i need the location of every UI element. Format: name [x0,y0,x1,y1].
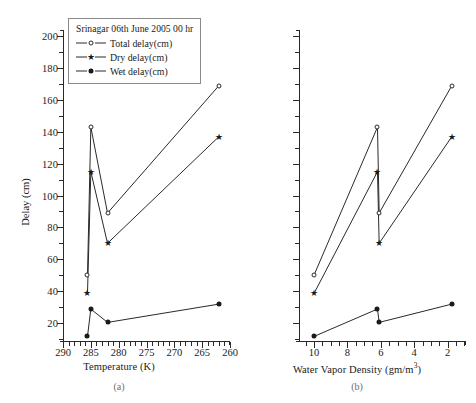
figure-delay-vs-temperature-and-wvd: Delay (cm) 20406080100120140160180200 ★★… [0,0,476,403]
data-point-filled-circle-icon [377,320,382,325]
panel-b: 20406080100120140160180200 ★★★★ Water Va… [238,0,476,403]
data-point-star-icon: ★ [103,239,112,248]
x-tick-minor [398,342,399,346]
data-point-star-icon: ★ [310,289,319,298]
y-tick-label: 140 [42,126,58,137]
x-axis-title-b-main: Water Vapor Density (gm/m [293,364,414,375]
x-tick-minor [219,342,220,346]
x-tick-label: 4 [412,347,417,358]
x-tick-label: 6 [378,347,383,358]
x-tick-minor [197,342,198,346]
legend-label-total: Total delay(cm) [106,38,172,49]
x-tick-minor [464,342,465,346]
x-tick-minor [456,342,457,346]
x-tick-minor [141,342,142,346]
x-axis-title-b-tail: ) [417,364,421,375]
x-tick-minor [439,342,440,346]
x-tick-label: 290 [55,347,71,358]
data-point-open-circle-icon [85,273,90,278]
data-point-open-circle-icon [377,211,382,216]
legend-entry-wet-a: Wet delay(cm) [76,64,193,78]
series-layer [299,30,466,342]
x-tick-minor [130,342,131,346]
x-tick-minor [406,342,407,346]
x-tick-label: 285 [83,347,99,358]
x-tick-minor [213,342,214,346]
y-tick-label: 180 [42,63,58,74]
x-tick-minor [180,342,181,346]
data-point-filled-circle-icon [88,307,93,312]
legend-title-a: Srinagar 06th June 2005 00 hr [76,23,193,34]
legend-label-wet: Wet delay(cm) [106,66,168,77]
data-point-open-circle-icon [312,273,317,278]
panel-caption-b: (b) [238,381,476,392]
x-axis-title-a: Temperature (K) [0,361,238,372]
data-point-filled-circle-icon [216,302,221,307]
data-point-filled-circle-icon [85,334,90,339]
panel-a: Delay (cm) 20406080100120140160180200 ★★… [0,0,238,403]
data-point-open-circle-icon [88,125,93,130]
data-point-star-icon: ★ [83,289,92,298]
x-tick-minor [372,342,373,346]
x-tick-minor [191,342,192,346]
x-tick-minor [96,342,97,346]
y-tick-labels-a: 20406080100120140160180200 [24,30,58,342]
data-point-open-circle-icon [375,125,380,130]
data-point-star-icon: ★ [447,132,456,141]
x-tick-label: 275 [139,347,155,358]
x-axis-title-b: Water Vapor Density (gm/m3) [238,361,476,375]
x-tick-minor [208,342,209,346]
x-tick-minor [80,342,81,346]
y-tick-label: 120 [42,158,58,169]
y-tick-label: 200 [42,31,58,42]
data-point-star-icon: ★ [214,132,223,141]
x-tick-minor [152,342,153,346]
data-point-filled-circle-icon [105,320,110,325]
x-tick-minor [389,342,390,346]
y-tick-label: 100 [42,190,58,201]
x-tick-minor [356,342,357,346]
x-tick-label: 270 [166,347,182,358]
x-tick-label: 8 [345,347,350,358]
data-point-filled-circle-icon [312,334,317,339]
legend-marker-filled-circle-icon [76,65,106,77]
x-tick-label: 260 [222,347,238,358]
legend-marker-star-icon: ★ [76,51,106,63]
x-tick-minor [158,342,159,346]
x-tick-minor [364,342,365,346]
series-line-wetdelaycm [314,304,452,336]
x-tick-minor [169,342,170,346]
legend-label-dry: Dry delay(cm) [106,52,167,63]
x-tick-minor [339,342,340,346]
x-tick-minor [69,342,70,346]
x-tick-minor [108,342,109,346]
legend-entry-dry-a: ★ Dry delay(cm) [76,50,193,64]
x-tick-minor [306,342,307,346]
data-point-star-icon: ★ [86,167,95,176]
x-tick-minor [113,342,114,346]
y-tick-label: 160 [42,95,58,106]
x-tick-minor [322,342,323,346]
x-tick-minor [423,342,424,346]
data-point-open-circle-icon [449,83,454,88]
legend-entry-total-a: Total delay(cm) [76,36,193,50]
series-line-drydelaycm [314,137,452,294]
data-point-star-icon: ★ [375,239,384,248]
x-tick-minor [135,342,136,346]
legend-a: Srinagar 06th June 2005 00 hr Total dela… [68,18,201,84]
data-point-filled-circle-icon [449,302,454,307]
x-tick-label: 2 [445,347,450,358]
x-tick-minor [102,342,103,346]
x-tick-minor [431,342,432,346]
x-tick-minor [185,342,186,346]
panel-caption-a: (a) [0,381,238,392]
data-point-filled-circle-icon [375,307,380,312]
plot-area-b: ★★★★ [299,30,466,342]
data-point-open-circle-icon [216,83,221,88]
x-tick-label: 265 [194,347,210,358]
x-tick-label: 280 [111,347,127,358]
x-tick-minor [74,342,75,346]
x-tick-minor [124,342,125,346]
legend-marker-open-circle-icon [76,37,106,49]
x-tick-minor [331,342,332,346]
